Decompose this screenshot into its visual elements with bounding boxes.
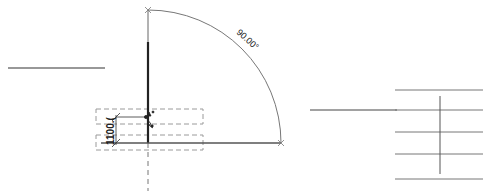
grip-point bbox=[152, 111, 154, 113]
door-grips[interactable] bbox=[144, 111, 154, 128]
door-swing-arc[interactable] bbox=[148, 10, 281, 143]
width-dimension[interactable] bbox=[112, 113, 146, 147]
dimension-label[interactable]: 1100.( bbox=[105, 117, 116, 145]
swing-angle-label[interactable]: 90.00° bbox=[235, 27, 261, 52]
drawing-canvas[interactable]: 1100.( 90.00° bbox=[0, 0, 488, 191]
stair-lines[interactable] bbox=[395, 90, 483, 179]
